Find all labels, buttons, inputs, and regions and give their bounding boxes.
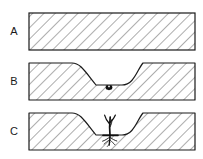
soil-germination-figure: A B	[0, 0, 203, 159]
panel-label-b: B	[10, 75, 17, 87]
soil-block-c-fill-group	[29, 113, 195, 150]
panel-label-a: A	[10, 25, 18, 37]
soil-block-c-fill	[29, 113, 195, 150]
panel-b: B	[10, 63, 195, 100]
figure-canvas: A B	[0, 0, 203, 159]
panel-a: A	[10, 13, 195, 50]
soil-block-b-fill-group	[29, 63, 195, 100]
panel-c: C	[10, 113, 195, 150]
soil-block-a-fill	[29, 13, 195, 50]
soil-block-b-fill	[29, 63, 195, 100]
panel-label-c: C	[10, 125, 18, 137]
